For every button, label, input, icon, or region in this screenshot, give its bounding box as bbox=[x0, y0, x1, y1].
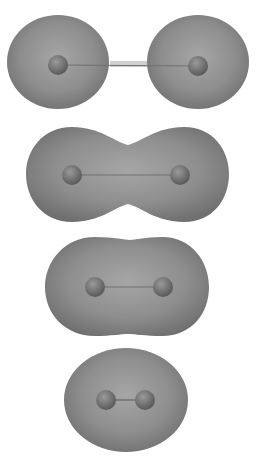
atom-right bbox=[153, 277, 173, 297]
panel-1-separated bbox=[7, 15, 249, 109]
bond-stick bbox=[110, 61, 147, 67]
atom-right bbox=[170, 165, 190, 185]
atom-left bbox=[96, 390, 116, 410]
panel-4-molecule bbox=[64, 348, 188, 452]
atom-left bbox=[85, 277, 105, 297]
atom-right bbox=[188, 56, 208, 76]
density-diagram bbox=[0, 0, 258, 467]
panel-3-merged bbox=[45, 237, 209, 336]
panel-2-overlapping bbox=[26, 127, 229, 222]
atom-left bbox=[48, 55, 68, 75]
atom-left bbox=[62, 165, 82, 185]
atom-right bbox=[135, 390, 155, 410]
